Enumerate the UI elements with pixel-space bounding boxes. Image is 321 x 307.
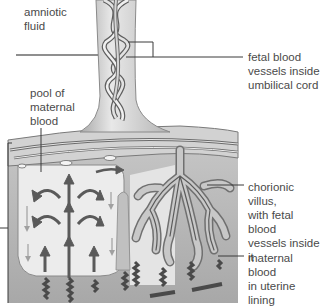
label-pool-of-maternal-blood: pool of maternal blood [30, 86, 75, 128]
label-fetal-blood-vessels: fetal blood vessels inside umbilical cor… [248, 50, 320, 92]
label-maternal-blood-uterine-lining: maternal blood in uterine lining [248, 251, 321, 307]
umbilical-cord [80, 0, 170, 132]
label-amniotic-fluid: amniotic fluid [24, 5, 67, 33]
